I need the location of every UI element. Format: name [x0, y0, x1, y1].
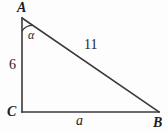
segment-ab	[22, 18, 159, 112]
triangle-figure	[0, 0, 168, 132]
figure-canvas: A B C 6 11 a α	[0, 0, 168, 132]
side-label-ab: 11	[84, 38, 97, 52]
vertex-label-b: B	[153, 116, 162, 130]
vertex-label-c: C	[7, 105, 16, 119]
vertex-label-a: A	[17, 1, 26, 15]
side-label-cb: a	[76, 114, 83, 128]
angle-label-alpha: α	[28, 29, 34, 41]
side-label-ac: 6	[9, 58, 16, 72]
